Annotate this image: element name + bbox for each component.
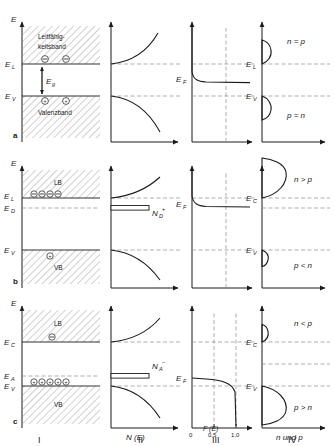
row-b-col4-carrier-concentration: E C E V n > p p < n xyxy=(246,158,330,288)
dos-valence-curve-a xyxy=(111,96,160,132)
conduction-band-label-a: Leitfähig- xyxy=(38,33,65,41)
col4-level-upper-c: E xyxy=(246,338,252,347)
valence-band-label-a: Valenzband xyxy=(38,109,72,116)
conduction-band-label2-a: keitsband xyxy=(38,43,66,50)
col4-level-lower-a: E xyxy=(246,92,252,101)
col4-level-lower-sub-b: V xyxy=(253,250,258,256)
col4-level-upper-sub-b: C xyxy=(253,198,257,204)
fermi-tick-one: 1,0 xyxy=(231,432,240,438)
level-sub-EA-c: A xyxy=(10,376,15,382)
carrier-relation-top-a: n = p xyxy=(287,37,306,46)
hole-distribution-c xyxy=(262,386,286,425)
carrier-relation-top-c: n < p xyxy=(294,319,313,328)
row-c-p-type: E LB VB E C E A E V + + + + + c I xyxy=(4,299,330,445)
svg-text:+: + xyxy=(49,253,52,259)
level-sub-EL-b: L xyxy=(11,196,14,202)
conduction-band-label-c: LB xyxy=(54,320,62,327)
level-sub-EV-a: V xyxy=(12,96,17,102)
electron-distribution-b xyxy=(262,158,286,198)
svg-text:+: + xyxy=(44,98,47,104)
fermi-curve-b xyxy=(192,170,250,207)
row-letter-c: c xyxy=(13,417,18,426)
acceptor-states-bar-c xyxy=(111,374,149,379)
dos-conduction-curve-a xyxy=(111,33,158,64)
figure-svg: E Leitfähig- keitsband Valenzband E L E … xyxy=(0,0,335,446)
col4-level-lower-sub-c: V xyxy=(253,386,258,392)
svg-text:+: + xyxy=(65,98,68,104)
row-b-col3-fermi-distribution: E F xyxy=(176,166,256,288)
acceptor-density-label-c: N xyxy=(152,362,158,371)
svg-text:+: + xyxy=(65,379,68,385)
donor-states-bar-b xyxy=(111,206,149,211)
fermi-label-a: E xyxy=(176,75,182,84)
semiconductor-band-diagram-figure: E Leitfähig- keitsband Valenzband E L E … xyxy=(0,0,335,446)
row-letter-b: b xyxy=(13,277,18,286)
col4-level-lower-b: E xyxy=(246,246,252,255)
carrier-relation-top-b: n > p xyxy=(294,175,313,184)
hole-distribution-b xyxy=(262,250,268,267)
fermi-tick-0: 0 xyxy=(189,432,193,438)
row-b-n-type: E LB VB E L E D E V + b xyxy=(4,158,330,288)
axis-label-energy-c: E xyxy=(11,299,17,308)
column-numeral-4: IV xyxy=(288,435,297,445)
level-label-ED-b: E xyxy=(4,204,10,213)
svg-text:+: + xyxy=(33,379,36,385)
hole-distribution-a xyxy=(262,96,271,120)
level-label-EL-a: E xyxy=(5,60,11,69)
row-a-col4-carrier-concentration: E L E V n = p p = n xyxy=(246,22,330,142)
row-c-col3-fermi-distribution: E F 0 0,5 1,0 xyxy=(176,306,256,438)
carrier-relation-bottom-b: p < n xyxy=(293,261,313,270)
electron-distribution-a xyxy=(262,40,271,64)
dos-conduction-curve-b xyxy=(111,177,160,198)
dos-valence-curve-c xyxy=(111,386,160,418)
level-sub-EV-c: V xyxy=(11,386,16,392)
column-numeral-2: II xyxy=(138,435,143,445)
row-a-col3-fermi-distribution: E F xyxy=(176,22,256,142)
level-label-EV-a: E xyxy=(5,92,11,101)
level-sub-EC-c: C xyxy=(11,342,15,348)
level-label-EL-b: E xyxy=(4,192,10,201)
row-a-col2-density-of-states xyxy=(111,22,182,142)
col4-level-lower-sub-a: V xyxy=(253,96,258,102)
row-letter-a: a xyxy=(13,131,18,140)
svg-text:+: + xyxy=(49,379,52,385)
dos-conduction-curve-c xyxy=(111,318,160,342)
column-numeral-3: III xyxy=(212,435,220,445)
gap-sub-a: g xyxy=(52,81,56,87)
row-b-col2-density-of-states: N D + xyxy=(111,166,182,288)
svg-text:+: + xyxy=(57,379,60,385)
valence-band-label-c: VB xyxy=(54,401,63,408)
svg-text:+: + xyxy=(41,379,44,385)
col4-level-upper-sub-a: L xyxy=(253,64,256,70)
axis-label-energy-a: E xyxy=(11,15,17,24)
column-numerals: II III IV xyxy=(138,435,297,445)
axis-label-fermi-function: F (E) xyxy=(203,425,218,432)
level-sub-EV-b: V xyxy=(11,250,16,256)
level-sub-ED-b: D xyxy=(11,208,15,214)
level-label-EA-c: E xyxy=(4,372,10,381)
col4-level-upper-sub-c: C xyxy=(253,342,257,348)
row-a-col1-band-diagram: E Leitfähig- keitsband Valenzband E L E … xyxy=(5,15,100,142)
donor-density-label-b: N xyxy=(152,209,158,218)
acceptor-density-sub-c: A xyxy=(158,366,163,372)
row-c-col1-band-diagram: E LB VB E C E A E V + + + + + c I xyxy=(4,299,100,445)
fermi-label-b: E xyxy=(176,200,182,209)
row-c-col4-carrier-concentration: E C E V n < p p > n n und p xyxy=(246,306,330,442)
carrier-relation-bottom-a: p = n xyxy=(286,111,306,120)
col4-level-upper-b: E xyxy=(246,194,252,203)
col4-level-lower-c: E xyxy=(246,382,252,391)
column-numeral-1: I xyxy=(38,435,41,445)
conduction-band-label-b: LB xyxy=(54,179,62,186)
col4-level-upper-a: E xyxy=(246,60,252,69)
level-sub-EL-a: L xyxy=(12,64,15,70)
donor-density-sup-b: + xyxy=(162,206,165,212)
row-b-col1-band-diagram: E LB VB E L E D E V + b xyxy=(4,159,100,288)
dos-valence-curve-b xyxy=(111,250,160,280)
fermi-sub-c: F xyxy=(183,378,187,384)
axis-label-energy-b: E xyxy=(11,159,17,168)
row-a-intrinsic: E Leitfähig- keitsband Valenzband E L E … xyxy=(5,15,330,142)
fermi-label-c: E xyxy=(176,374,182,383)
level-label-EV-c: E xyxy=(4,382,10,391)
level-label-EC-c: E xyxy=(4,338,10,347)
acceptor-holes-c: + + + + + xyxy=(31,379,69,385)
